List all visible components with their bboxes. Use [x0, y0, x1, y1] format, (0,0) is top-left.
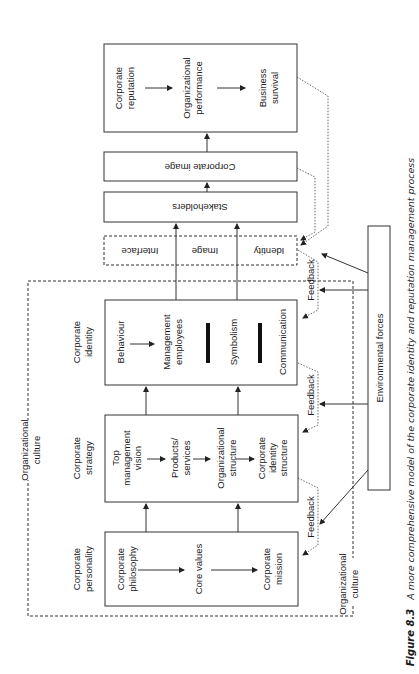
svg-text:Products/: Products/: [169, 438, 180, 478]
svg-text:Image: Image: [192, 246, 218, 257]
svg-text:Corporate: Corporate: [71, 548, 82, 590]
svg-text:philosophy: philosophy: [127, 546, 138, 592]
organizational-performance-label: Organizational performance: [181, 57, 204, 118]
corporate-identity-box: [105, 300, 297, 385]
corporate-strategy-heading: Corporate strategy: [71, 437, 94, 479]
svg-text:survival: survival: [269, 72, 280, 104]
arrow-env-to-feedback-personality: [320, 470, 368, 524]
behaviour-label: Behaviour: [115, 321, 126, 364]
business-survival-label: Business survival: [257, 68, 280, 107]
svg-text:Business: Business: [257, 68, 268, 107]
feedback-label-2: Feedback: [305, 374, 316, 416]
identity-reputation-diagram: Organizational culture Organizational cu…: [0, 0, 419, 674]
svg-text:culture: culture: [31, 436, 42, 465]
svg-text:mission: mission: [273, 553, 284, 585]
svg-text:Corporate: Corporate: [113, 67, 124, 109]
svg-text:Interface: Interface: [122, 246, 159, 257]
svg-text:personality: personality: [83, 546, 94, 592]
environmental-forces-label: Environmental forces: [374, 313, 385, 402]
core-values-label: Core values: [193, 543, 204, 594]
svg-text:culture: culture: [349, 570, 360, 599]
svg-text:identity: identity: [83, 327, 94, 357]
corporate-philosophy-label: Corporate philosophy: [115, 546, 138, 592]
corporate-identity-structure-label: Corporate identity structure: [256, 437, 289, 479]
svg-text:Communication: Communication: [277, 309, 288, 375]
svg-text:reputation: reputation: [125, 67, 136, 109]
svg-text:Corporate: Corporate: [256, 437, 267, 479]
feedback-label-1: Feedback: [305, 496, 316, 538]
svg-text:Corporate: Corporate: [71, 437, 82, 479]
management-employees-label: Management employees: [161, 314, 184, 370]
svg-text:Core values: Core values: [193, 543, 204, 594]
svg-text:Management: Management: [161, 314, 172, 370]
caption-text: A more comprehensive model of the corpor…: [405, 158, 416, 601]
feedback-loop-outcomes-interface: [297, 77, 328, 245]
svg-text:Organizational: Organizational: [215, 427, 226, 488]
svg-text:Organizational: Organizational: [19, 419, 30, 480]
figure-caption: Figure 8.3 A more comprehensive model of…: [400, 158, 417, 666]
svg-text:vision: vision: [132, 446, 143, 470]
svg-text:Feedback: Feedback: [305, 496, 316, 538]
svg-text:Corporate: Corporate: [261, 548, 272, 590]
corporate-mission-label: Corporate mission: [261, 548, 284, 590]
arrow-env-to-interface: [322, 254, 368, 273]
svg-text:Figure 8.3 A more compre: Figure 8.3 A more comprehensive model of…: [400, 158, 417, 666]
svg-text:Organizational: Organizational: [337, 553, 348, 614]
svg-text:structure: structure: [227, 440, 238, 477]
svg-text:identity: identity: [267, 443, 278, 473]
svg-text:Organizational: Organizational: [181, 57, 192, 118]
svg-text:Identity: Identity: [253, 246, 284, 257]
svg-text:management: management: [121, 430, 132, 486]
products-services-label: Products/ services: [169, 438, 192, 478]
svg-text:Corporate image: Corporate image: [165, 162, 236, 173]
feedback-label-3: Feedback: [305, 259, 316, 301]
separator-bar-2: [258, 323, 262, 363]
corporate-image-label: Corporate image: [165, 162, 236, 173]
interface-label: Interface: [122, 246, 159, 257]
svg-text:performance: performance: [193, 61, 204, 114]
svg-text:Stakeholders: Stakeholders: [172, 202, 228, 213]
corporate-reputation-label: Corporate reputation: [113, 67, 136, 109]
identity-label: Identity: [253, 246, 284, 257]
feedback-loop-image-interface: [297, 168, 315, 240]
corporate-personality-heading: Corporate personality: [71, 546, 94, 592]
stakeholders-label: Stakeholders: [172, 202, 228, 213]
svg-text:Behaviour: Behaviour: [115, 321, 126, 364]
svg-text:Corporate: Corporate: [71, 321, 82, 363]
svg-text:Corporate: Corporate: [115, 548, 126, 590]
svg-text:strategy: strategy: [83, 441, 94, 475]
separator-bar-1: [206, 323, 210, 363]
svg-text:Symbolism: Symbolism: [228, 319, 239, 366]
figure-label: Figure 8.3: [405, 609, 416, 666]
svg-text:structure: structure: [278, 440, 289, 477]
svg-text:Environmental forces: Environmental forces: [374, 313, 385, 402]
svg-text:services: services: [181, 440, 192, 475]
corporate-identity-heading: Corporate identity: [71, 321, 94, 363]
symbolism-label: Symbolism: [228, 319, 239, 366]
svg-text:employees: employees: [173, 319, 184, 365]
svg-text:Feedback: Feedback: [305, 259, 316, 301]
communication-label: Communication: [277, 309, 288, 375]
image-label: Image: [192, 246, 218, 257]
svg-text:Top: Top: [110, 450, 121, 465]
svg-text:Feedback: Feedback: [305, 374, 316, 416]
